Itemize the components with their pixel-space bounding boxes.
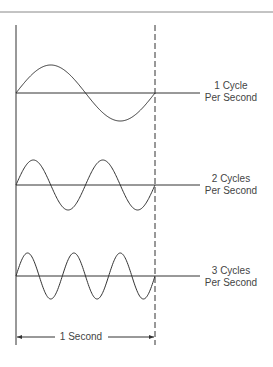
wave-2-label-line1: 2 Cycles [191,173,271,185]
arrow-left-icon [17,335,22,339]
wave-3-label-line1: 3 Cycles [191,265,271,277]
arrow-right-icon [149,335,154,339]
time-span-label: 1 Second [41,331,121,343]
wave-1-label-line1: 1 Cycle [191,80,271,92]
wave-3-label-line2: Per Second [191,277,271,289]
wave-2-label-line2: Per Second [191,185,271,197]
wave-1-label-line2: Per Second [191,92,271,104]
